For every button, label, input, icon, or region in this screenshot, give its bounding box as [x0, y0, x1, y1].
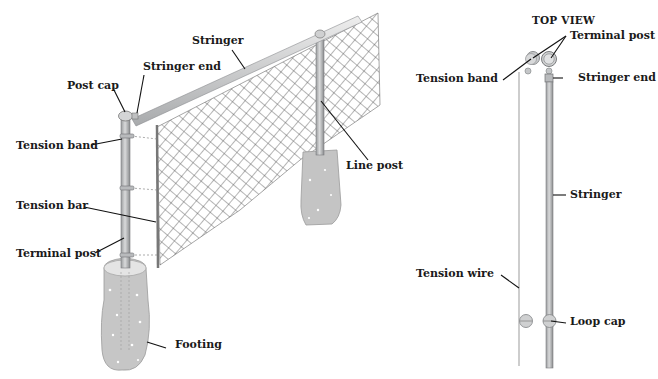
label-stringer: Stringer [192, 35, 243, 47]
label-line-post: Line post [346, 160, 403, 172]
line-post [316, 33, 324, 155]
label-top-tension-band: Tension band [416, 73, 498, 85]
label-top-stringer-end: Stringer end [578, 72, 656, 84]
stringer-end [132, 113, 138, 119]
top-view-drawing [519, 52, 557, 369]
label-footing: Footing [175, 339, 222, 351]
label-top-tension-wire: Tension wire [416, 268, 494, 280]
top-view-title: TOP VIEW [532, 14, 595, 26]
label-stringer-end: Stringer end [143, 61, 221, 73]
label-top-loop-cap: Loop cap [570, 316, 625, 328]
line-post-footing [301, 150, 341, 225]
terminal-post-footing [101, 258, 149, 370]
label-top-terminal-post: Terminal post [570, 30, 655, 42]
label-post-cap: Post cap [67, 80, 119, 92]
label-tension-band: Tension band [16, 140, 98, 152]
tension-bar [157, 125, 158, 268]
terminal-post [121, 118, 130, 268]
fence-diagram: Stringer Stringer end Post cap Tension b… [0, 0, 658, 379]
label-terminal-post: Terminal post [16, 248, 101, 260]
chain-link-mesh [157, 13, 380, 265]
fence-illustration [0, 0, 658, 379]
post-cap [119, 111, 133, 121]
label-tension-bar: Tension bar [16, 200, 88, 212]
label-top-stringer: Stringer [570, 189, 621, 201]
